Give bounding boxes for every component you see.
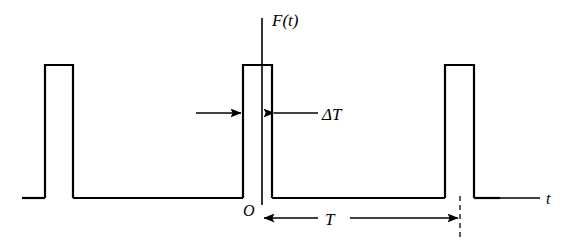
pulse-3 — [445, 65, 474, 198]
origin-label: O — [243, 202, 255, 219]
period-label: T — [325, 210, 336, 229]
y-axis-label: F(t) — [271, 11, 299, 30]
pulse-width-label: ΔT — [321, 105, 343, 124]
waveform-trace — [22, 65, 540, 198]
pulse-1 — [45, 65, 73, 198]
pulse-2 — [243, 65, 272, 198]
pulse-train-diagram: F(t) ΔT T O t — [0, 0, 568, 250]
pulse-train-figure: F(t) ΔT T O t — [0, 0, 568, 250]
x-axis-label: t — [546, 190, 551, 207]
